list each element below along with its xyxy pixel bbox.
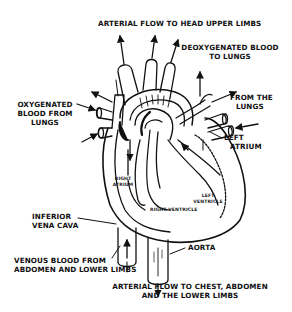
carotid-vessel: [143, 60, 157, 91]
label-arterial-chest-line1: ARTERIAL FLOW TO CHEST, ABDOMEN: [104, 282, 276, 291]
label-ivc-line1: INFERIOR: [32, 212, 78, 221]
label-ivc-line2: VENA CAVA: [32, 221, 78, 230]
label-oxy-line1: OXYGENATED: [12, 100, 78, 109]
label-from-lungs-line2: LUNGS: [230, 102, 273, 111]
label-left-atrium: LEFT ATRIUM: [222, 133, 262, 151]
label-right-ventricle: RIGHT VENTRICLE: [150, 207, 197, 213]
label-right-atrium: RIGHT ATRIUM: [108, 176, 138, 187]
label-oxy-line2: BLOOD FROM: [12, 109, 78, 118]
pulmonary-trunk: [135, 109, 173, 140]
superior-vena-cava: [112, 95, 124, 128]
label-venous-blood: VENOUS BLOOD FROM ABDOMEN AND LOWER LIMB…: [14, 256, 136, 274]
label-deoxygenated-line1: DEOXYGENATED BLOOD: [176, 43, 284, 52]
label-arterial-chest: ARTERIAL FLOW TO CHEST, ABDOMEN AND THE …: [104, 282, 276, 300]
label-oxy-line3: LUNGS: [12, 118, 78, 127]
label-inferior-vena-cava: INFERIOR VENA CAVA: [32, 212, 78, 230]
label-arterial-chest-line2: AND THE LOWER LIMBS: [104, 291, 276, 300]
label-deoxygenated-line2: TO LUNGS: [176, 52, 284, 61]
label-venous-line2: ABDOMEN AND LOWER LIMBS: [14, 265, 136, 274]
label-left-ventricle-line2: VENTRICLE: [188, 199, 228, 205]
label-from-lungs-line1: FROM THE: [230, 93, 273, 102]
label-oxygenated-blood: OXYGENATED BLOOD FROM LUNGS: [12, 100, 78, 127]
label-left-ventricle: LEFT VENTRICLE: [188, 193, 228, 204]
label-arterial-head: ARTERIAL FLOW TO HEAD UPPER LIMBS: [98, 19, 261, 28]
label-aorta: AORTA: [188, 243, 215, 252]
label-right-atrium-line2: ATRIUM: [108, 182, 138, 188]
subclavian-vessel: [160, 63, 175, 98]
label-left-atrium-line2: ATRIUM: [222, 142, 262, 151]
label-venous-line1: VENOUS BLOOD FROM: [14, 256, 136, 265]
label-from-the-lungs: FROM THE LUNGS: [230, 93, 273, 111]
label-deoxygenated-blood: DEOXYGENATED BLOOD TO LUNGS: [176, 43, 284, 61]
label-left-atrium-line1: LEFT: [222, 133, 262, 142]
